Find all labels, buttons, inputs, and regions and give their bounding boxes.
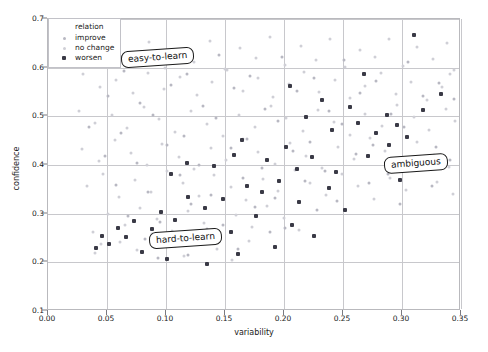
data-point bbox=[451, 192, 454, 195]
data-point bbox=[268, 36, 271, 39]
x-tick-label: 0.10 bbox=[157, 314, 174, 323]
data-point bbox=[187, 210, 190, 213]
legend-marker-icon bbox=[53, 37, 75, 40]
data-point bbox=[308, 181, 311, 184]
data-point bbox=[126, 127, 129, 130]
data-point bbox=[157, 118, 160, 121]
data-point bbox=[445, 42, 448, 45]
data-point bbox=[179, 173, 182, 176]
data-point bbox=[371, 143, 374, 146]
gridline-vertical bbox=[343, 19, 344, 309]
data-point bbox=[123, 223, 126, 226]
legend-entry[interactable]: improve bbox=[53, 33, 114, 43]
data-point bbox=[398, 178, 402, 182]
data-point bbox=[247, 239, 250, 242]
data-point bbox=[412, 33, 416, 37]
data-point bbox=[277, 189, 280, 192]
data-point bbox=[173, 218, 177, 222]
data-point bbox=[148, 41, 151, 44]
data-point bbox=[343, 58, 346, 61]
data-point bbox=[273, 245, 277, 249]
data-point bbox=[284, 63, 287, 66]
data-point bbox=[402, 64, 405, 67]
x-tick-mark bbox=[342, 310, 343, 315]
data-point bbox=[245, 184, 249, 188]
data-point bbox=[182, 134, 185, 137]
data-point bbox=[241, 90, 244, 93]
legend-entry[interactable]: no change bbox=[53, 43, 114, 53]
data-point bbox=[304, 115, 308, 119]
data-point bbox=[169, 83, 172, 86]
data-point bbox=[253, 206, 256, 209]
data-point bbox=[233, 86, 236, 89]
data-point bbox=[114, 139, 117, 142]
data-point bbox=[404, 188, 407, 191]
data-point bbox=[369, 137, 372, 140]
legend-entry-label: no change bbox=[75, 43, 114, 53]
x-tick-mark bbox=[224, 310, 225, 315]
data-point bbox=[405, 135, 409, 139]
data-point bbox=[421, 108, 425, 112]
x-tick-label: 0.05 bbox=[98, 314, 115, 323]
x-tick-mark bbox=[283, 310, 284, 315]
data-point bbox=[193, 60, 196, 63]
data-point bbox=[115, 184, 118, 187]
data-point bbox=[403, 125, 406, 128]
data-point bbox=[129, 151, 132, 154]
legend-entry[interactable]: worsen bbox=[53, 53, 114, 63]
data-point bbox=[201, 104, 204, 107]
gridline-horizontal bbox=[48, 116, 459, 117]
data-point bbox=[187, 254, 190, 257]
data-point bbox=[292, 149, 295, 152]
data-point bbox=[179, 75, 182, 78]
data-point bbox=[273, 163, 276, 166]
data-point bbox=[203, 206, 207, 210]
data-point bbox=[245, 198, 248, 201]
data-point bbox=[195, 93, 198, 96]
data-point bbox=[395, 123, 399, 127]
data-point bbox=[264, 107, 267, 110]
data-point bbox=[444, 108, 447, 111]
data-point bbox=[94, 121, 97, 124]
data-point bbox=[225, 159, 228, 162]
data-point bbox=[147, 71, 150, 74]
data-point bbox=[295, 167, 299, 171]
data-point bbox=[257, 77, 260, 80]
data-point bbox=[439, 92, 443, 96]
data-point bbox=[301, 129, 304, 132]
data-point bbox=[221, 134, 224, 137]
data-point bbox=[412, 116, 415, 119]
data-point bbox=[209, 146, 212, 149]
data-point bbox=[384, 149, 387, 152]
data-point bbox=[127, 214, 130, 217]
data-point bbox=[102, 173, 105, 176]
data-point bbox=[94, 246, 98, 250]
data-point bbox=[387, 143, 391, 147]
data-point bbox=[115, 78, 118, 81]
data-point bbox=[452, 98, 455, 101]
data-point bbox=[116, 226, 120, 230]
data-point bbox=[441, 86, 444, 89]
data-point bbox=[449, 158, 452, 161]
data-point bbox=[142, 106, 145, 109]
data-point bbox=[448, 165, 451, 168]
legend-dot bbox=[62, 56, 66, 60]
data-point bbox=[251, 225, 254, 228]
data-point bbox=[165, 257, 169, 261]
data-point bbox=[352, 158, 355, 161]
data-point bbox=[103, 155, 106, 158]
data-point bbox=[215, 247, 218, 250]
data-point bbox=[118, 241, 121, 244]
data-point bbox=[260, 167, 263, 170]
data-point bbox=[373, 56, 376, 59]
data-point bbox=[240, 138, 244, 142]
x-tick-mark bbox=[460, 310, 461, 315]
data-point bbox=[308, 140, 311, 143]
data-point bbox=[156, 257, 159, 260]
data-point bbox=[324, 170, 327, 173]
data-point bbox=[159, 220, 162, 223]
data-point bbox=[120, 131, 123, 134]
data-point bbox=[285, 117, 288, 120]
data-point bbox=[349, 97, 352, 100]
data-point bbox=[229, 230, 233, 234]
